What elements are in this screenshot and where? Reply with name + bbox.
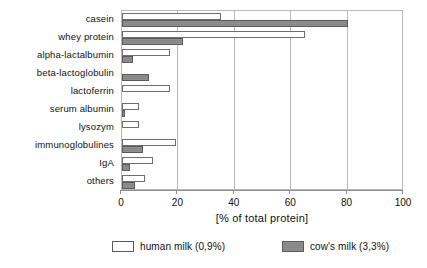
category-axis: caseinwhey proteinalpha-lactalbuminbeta-… <box>0 10 118 190</box>
bar-cow-serum-albumin <box>122 110 125 117</box>
legend-swatch-human-icon <box>112 241 134 252</box>
category-label: lactoferrin <box>0 86 114 96</box>
legend-entry-human[interactable]: human milk (0,9%) <box>112 241 225 252</box>
x-tick-mark-40 <box>233 190 234 194</box>
bar-human-alpha-lactalbumin <box>122 49 170 56</box>
bar-cow-whey-protein <box>122 38 183 45</box>
gridline-80 <box>347 11 348 189</box>
x-tick-label: 100 <box>383 197 423 209</box>
category-label: casein <box>0 14 114 24</box>
bar-human-immunoglobulines <box>122 139 176 146</box>
chart-legend: human milk (0,9%)cow's milk (3,3%) <box>112 241 412 259</box>
bar-human-lysozym <box>122 121 139 128</box>
milk-protein-bar-chart: caseinwhey proteinalpha-lactalbuminbeta-… <box>0 0 427 268</box>
legend-label: human milk (0,9%) <box>140 241 225 252</box>
bar-human-serum-albumin <box>122 103 139 110</box>
legend-label: cow's milk (3,3%) <box>310 241 389 252</box>
bar-cow-iga <box>122 164 130 171</box>
bar-human-lactoferrin <box>122 85 170 92</box>
x-tick-label: 80 <box>327 197 367 209</box>
x-tick-label: 60 <box>270 197 310 209</box>
category-label: beta-lactoglobulin <box>0 68 114 78</box>
bar-human-whey-protein <box>122 31 305 38</box>
bar-human-iga <box>122 157 153 164</box>
bar-human-others <box>122 175 145 182</box>
x-axis-title: [% of total protein] <box>121 212 403 224</box>
category-label: others <box>0 176 114 186</box>
x-tick-mark-80 <box>346 190 347 194</box>
x-tick-mark-0 <box>120 190 121 194</box>
bar-cow-others <box>122 182 135 189</box>
x-tick-label: 0 <box>101 197 141 209</box>
bar-human-casein <box>122 13 221 20</box>
category-label: alpha-lactalbumin <box>0 50 114 60</box>
x-tick-mark-20 <box>176 190 177 194</box>
x-tick-label: 20 <box>157 197 197 209</box>
bar-cow-immunoglobulines <box>122 146 143 153</box>
bar-cow-alpha-lactalbumin <box>122 56 133 63</box>
category-label: immunoglobulines <box>0 140 114 150</box>
x-tick-mark-100 <box>402 190 403 194</box>
category-label: serum albumin <box>0 104 114 114</box>
legend-swatch-cow-icon <box>282 241 304 252</box>
category-label: lysozym <box>0 122 114 132</box>
category-label: whey protein <box>0 32 114 42</box>
x-axis-line <box>121 190 403 191</box>
x-tick-label: 40 <box>214 197 254 209</box>
category-label: IgA <box>0 158 114 168</box>
plot-area <box>121 10 403 190</box>
bar-cow-beta-lactoglobulin <box>122 74 149 81</box>
bar-cow-casein <box>122 20 348 27</box>
legend-entry-cow[interactable]: cow's milk (3,3%) <box>282 241 389 252</box>
x-tick-mark-60 <box>289 190 290 194</box>
